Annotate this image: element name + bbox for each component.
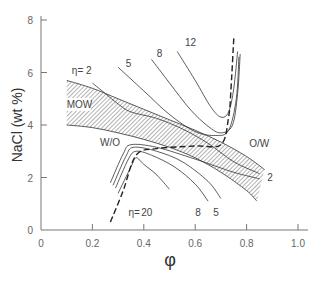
- x-tick-label: 0.8: [240, 238, 254, 249]
- annotation-label: W/O: [100, 137, 120, 148]
- x-tick-label: 0: [38, 238, 44, 249]
- y-axis-label: NaCl (wt %): [9, 88, 25, 163]
- x-tick-label: 1.0: [291, 238, 305, 249]
- annotation-label: O/W: [249, 138, 270, 149]
- annotation-label: 5: [213, 207, 219, 218]
- annotation-label: 2: [267, 172, 273, 183]
- annotation-label: MOW: [67, 99, 93, 110]
- annotation-label: η=: [128, 207, 140, 218]
- y-tick-label: 6: [27, 68, 33, 79]
- annotation-label: 5: [126, 58, 132, 69]
- chart: 00.20.40.60.81.002468 η= 25812MOWW/OO/W2…: [0, 0, 323, 282]
- annotation-label: 8: [195, 207, 201, 218]
- x-tick-label: 0.4: [137, 238, 151, 249]
- x-tick-label: 0.6: [188, 238, 202, 249]
- annotation-label: 20: [141, 207, 153, 218]
- eta-curve: [177, 52, 237, 118]
- x-axis-label: φ: [164, 250, 176, 270]
- y-tick-label: 8: [27, 15, 33, 26]
- eta-curve: [118, 158, 169, 194]
- y-tick-label: 0: [27, 225, 33, 236]
- annotation-label: 8: [157, 48, 163, 59]
- annotation-label: 12: [185, 37, 197, 48]
- hatched-regions: [67, 80, 265, 201]
- y-tick-label: 4: [27, 120, 33, 131]
- x-tick-label: 0.2: [85, 238, 99, 249]
- mow-region: [67, 80, 265, 201]
- annotation-label: η= 2: [72, 65, 92, 76]
- y-tick-label: 2: [27, 173, 33, 184]
